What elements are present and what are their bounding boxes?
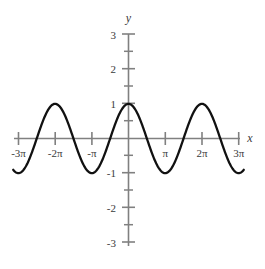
x-tick-label-neg3pi: -3π [11,147,26,159]
x-tick-label-3pi: 3π [233,147,245,159]
plot-canvas: -3π -2π -π π 2π 3π 3 2 1 -1 -2 -3 y x [0,0,265,269]
y-tick-label-3: 3 [111,29,117,41]
plot-background [0,0,265,269]
y-tick-label-1: 1 [111,98,117,110]
y-tick-label-neg3: -3 [107,237,117,249]
y-tick-label-neg2: -2 [107,202,116,214]
x-tick-label-2pi: 2π [196,147,208,159]
x-tick-label-neg2pi: -2π [48,147,63,159]
x-axis-label: x [246,131,253,145]
y-tick-label-neg1: -1 [107,167,116,179]
x-tick-label-pi: π [163,147,169,159]
x-tick-label-negpi: -π [87,147,97,159]
y-axis-label: y [125,11,132,25]
cosine-graph-figure: -3π -2π -π π 2π 3π 3 2 1 -1 -2 -3 y x [0,0,265,269]
y-tick-label-2: 2 [111,63,117,75]
